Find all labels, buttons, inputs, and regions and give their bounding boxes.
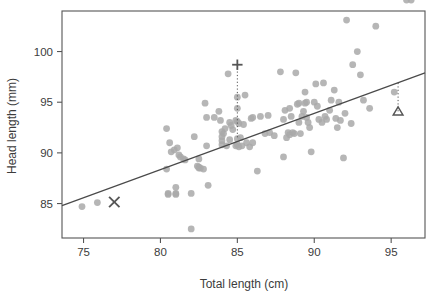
data-point <box>295 100 302 107</box>
data-point <box>265 112 272 119</box>
data-point <box>188 225 195 232</box>
data-point <box>257 113 264 120</box>
data-point <box>249 114 256 121</box>
x-tick-label: 75 <box>77 246 90 258</box>
data-point <box>302 89 309 96</box>
data-point <box>215 108 222 115</box>
data-point <box>342 110 349 117</box>
data-point <box>334 124 341 131</box>
x-tick-label: 90 <box>308 246 321 258</box>
data-point <box>94 199 101 206</box>
data-point <box>300 108 307 115</box>
data-point <box>217 117 224 124</box>
chart-background <box>0 0 442 298</box>
data-point <box>277 68 284 75</box>
data-point <box>366 105 373 112</box>
data-point <box>211 114 218 121</box>
data-point <box>271 132 278 139</box>
data-point <box>357 71 364 78</box>
y-tick-label: 100 <box>34 46 53 58</box>
y-tick-label: 90 <box>40 147 53 159</box>
data-point <box>225 70 232 77</box>
data-point <box>314 103 321 110</box>
x-axis-title: Total length (cm) <box>200 277 289 291</box>
data-point <box>331 87 338 94</box>
data-point <box>222 125 229 132</box>
data-point <box>174 144 181 151</box>
data-point <box>320 80 327 87</box>
data-point <box>348 120 355 127</box>
data-point <box>226 136 233 143</box>
data-point <box>240 121 247 128</box>
data-point <box>249 139 256 146</box>
y-tick-label: 85 <box>40 198 53 210</box>
data-point <box>200 166 207 173</box>
data-point <box>79 203 86 210</box>
chart-canvas: 7580859095 859095100 Total length (cm) H… <box>0 0 442 298</box>
data-point <box>229 126 236 133</box>
data-point <box>354 48 361 55</box>
x-tick-label: 95 <box>385 246 398 258</box>
data-point <box>297 130 304 137</box>
data-point <box>337 117 344 124</box>
data-point <box>292 69 299 76</box>
data-point <box>308 148 315 155</box>
data-point <box>312 81 319 88</box>
data-point <box>205 182 212 189</box>
data-point <box>323 116 330 123</box>
data-point <box>203 114 210 121</box>
y-axis-title: Head length (mm) <box>5 78 19 174</box>
data-point <box>303 99 310 106</box>
data-point <box>163 125 170 132</box>
data-point <box>349 61 356 68</box>
data-point <box>172 184 179 191</box>
data-point <box>166 139 173 146</box>
data-point <box>165 191 172 198</box>
x-tick-label: 80 <box>154 246 167 258</box>
data-point <box>286 105 293 112</box>
data-point <box>340 155 347 162</box>
data-point <box>391 89 398 96</box>
data-point <box>188 190 195 197</box>
data-point <box>242 92 249 99</box>
data-point <box>191 133 198 140</box>
data-point <box>254 168 261 175</box>
data-point <box>280 154 287 161</box>
x-tick-label: 85 <box>231 246 244 258</box>
scatter-plot-figure: 7580859095 859095100 Total length (cm) H… <box>0 0 442 298</box>
y-tick-label: 95 <box>40 96 53 108</box>
data-point <box>280 116 287 123</box>
data-point <box>360 97 367 104</box>
data-point <box>328 97 335 104</box>
data-point <box>202 100 209 107</box>
data-point <box>343 17 350 24</box>
data-point <box>288 113 295 120</box>
data-point <box>203 142 210 149</box>
data-point <box>172 191 179 198</box>
data-point <box>291 130 298 137</box>
data-point <box>306 124 313 131</box>
data-point <box>372 23 379 30</box>
